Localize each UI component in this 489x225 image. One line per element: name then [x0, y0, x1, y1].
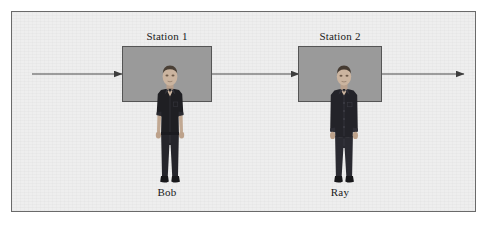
worker-name-ray: Ray — [298, 186, 382, 198]
figure-canvas: Station 1 Station 2 — [0, 0, 489, 225]
worker-figure-ray — [314, 57, 374, 187]
flow-arrows-layer — [12, 12, 476, 212]
worker-name-bob: Bob — [122, 186, 212, 198]
station-label-2: Station 2 — [298, 30, 382, 42]
diagram-panel: Station 1 Station 2 — [11, 11, 476, 212]
worker-figure-bob — [140, 57, 200, 187]
station-label-1: Station 1 — [122, 30, 212, 42]
